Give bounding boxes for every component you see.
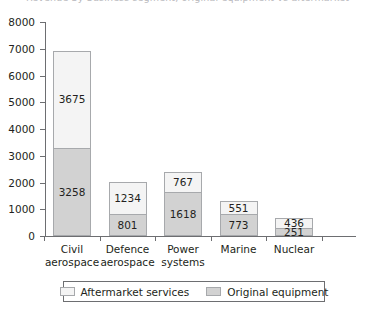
bar-value-label: 1618	[170, 209, 197, 220]
bar-value-label: 251	[284, 227, 304, 238]
bar-group: 36753258	[53, 22, 91, 236]
stacked-bar-chart: Revenue by business segment, original eq…	[0, 0, 365, 315]
bar-value-label: 3675	[59, 94, 86, 105]
y-axis-tick-label: 7000	[0, 43, 35, 55]
y-axis-tick-label: 2000	[0, 177, 35, 189]
y-axis-tick-label: 4000	[0, 123, 35, 135]
y-axis-tick	[40, 76, 45, 77]
legend-swatch	[60, 287, 75, 296]
title-text: Revenue by business segment, original eq…	[0, 0, 365, 4]
legend-entry: Aftermarket services	[60, 286, 190, 298]
y-axis-tick-label: 3000	[0, 150, 35, 162]
y-axis-tick	[40, 22, 45, 23]
y-axis-tick-label: 6000	[0, 70, 35, 82]
category-label-line: Nuclear	[256, 243, 332, 256]
bar-segment: 767	[164, 172, 202, 193]
legend-label: Original equipment	[227, 286, 328, 298]
bar-segment: 1234	[109, 182, 147, 215]
y-axis-tick	[40, 102, 45, 103]
y-axis-tick	[40, 183, 45, 184]
x-axis-tick	[211, 236, 212, 241]
y-axis-tick	[40, 209, 45, 210]
chart-legend: Aftermarket servicesOriginal equipment	[63, 281, 325, 302]
bar-value-label: 767	[173, 177, 193, 188]
y-axis-tick	[40, 156, 45, 157]
legend-entry: Original equipment	[206, 286, 328, 298]
y-axis-line	[45, 22, 46, 237]
bar-segment: 551	[220, 201, 258, 216]
y-axis-tick-label: 0	[0, 230, 35, 242]
x-axis-tick	[44, 236, 45, 241]
y-axis-tick-label: 5000	[0, 96, 35, 108]
bar-value-label: 801	[117, 220, 137, 231]
y-axis-tick	[40, 49, 45, 50]
bar-segment: 773	[220, 215, 258, 236]
bar-segment: 3258	[53, 149, 91, 236]
cropped-title-fragment: Revenue by business segment, original eq…	[0, 0, 365, 5]
y-axis-tick-label: 8000	[0, 16, 35, 28]
bar-value-label: 551	[228, 203, 248, 214]
legend-label: Aftermarket services	[81, 286, 190, 298]
y-axis-tick	[40, 129, 45, 130]
bar-segment: 801	[109, 215, 147, 236]
y-axis-tick-label: 1000	[0, 203, 35, 215]
bar-value-label: 3258	[59, 187, 86, 198]
category-label-line: systems	[145, 256, 221, 269]
x-axis-line	[45, 236, 356, 237]
x-axis-tick	[322, 236, 323, 241]
x-axis-tick	[100, 236, 101, 241]
x-axis-tick	[266, 236, 267, 241]
x-axis-category-label: Nuclear	[256, 243, 332, 256]
bar-segment: 3675	[53, 51, 91, 149]
bar-group: 551773	[220, 22, 258, 236]
x-axis-tick	[155, 236, 156, 241]
bar-value-label: 1234	[114, 193, 141, 204]
bar-segment: 1618	[164, 193, 202, 236]
bar-segment: 251	[275, 229, 313, 236]
bar-group: 436251	[275, 22, 313, 236]
bar-group: 7671618	[164, 22, 202, 236]
bar-group: 1234801	[109, 22, 147, 236]
bar-value-label: 773	[228, 220, 248, 231]
legend-swatch	[206, 287, 221, 296]
